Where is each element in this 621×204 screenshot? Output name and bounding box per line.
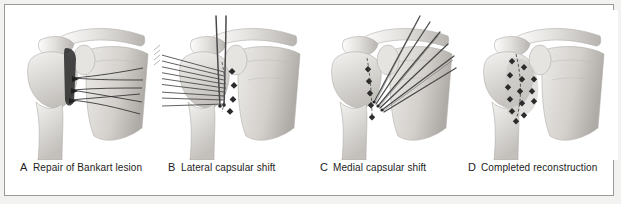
caption-letter-a: A — [20, 161, 33, 174]
coracoid — [377, 45, 399, 75]
caption-letter-b: B — [168, 161, 181, 174]
humerus-shaft — [36, 102, 63, 160]
caption-text-d: Completed reconstruction — [481, 161, 597, 174]
humerus-shaft — [340, 102, 367, 160]
panel-medial-capsular-shift — [314, 10, 466, 160]
scapula — [238, 47, 300, 141]
panel-lateral-capsular-shift — [162, 10, 314, 160]
caption-letter-c: C — [320, 161, 333, 174]
scapula — [542, 47, 604, 141]
panel-row — [10, 10, 618, 160]
caption-text-b: Lateral capsular shift — [181, 161, 275, 174]
scapula — [390, 47, 452, 141]
caption-a: A Repair of Bankart lesion — [20, 161, 160, 174]
scapula — [86, 47, 148, 141]
capsular-incision — [64, 48, 76, 106]
panel-completed-reconstruction — [466, 10, 618, 160]
coracoid — [73, 45, 95, 75]
caption-b: B Lateral capsular shift — [168, 161, 318, 174]
panel-repair-of-bankart-lesion — [10, 10, 162, 160]
figure-frame: A Repair of Bankart lesion B Lateral cap… — [4, 4, 614, 196]
figure-container: A Repair of Bankart lesion B Lateral cap… — [0, 0, 621, 204]
caption-c: C Medial capsular shift — [320, 161, 470, 174]
caption-text-c: Medial capsular shift — [333, 161, 426, 174]
caption-row: A Repair of Bankart lesion B Lateral cap… — [10, 161, 618, 199]
caption-d: D Completed reconstruction — [468, 161, 621, 174]
caption-text-a: Repair of Bankart lesion — [33, 161, 142, 174]
coracoid — [225, 45, 247, 75]
caption-letter-d: D — [468, 161, 481, 174]
humerus-shaft — [188, 102, 215, 160]
